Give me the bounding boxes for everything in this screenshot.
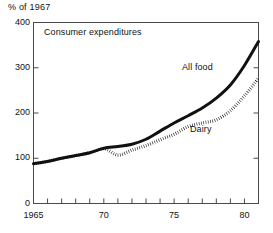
x-tick-label: 75 bbox=[169, 210, 179, 220]
x-tick-label: 70 bbox=[99, 210, 109, 220]
chart-figure: % of 1967 Consumer expenditures All food… bbox=[0, 0, 273, 233]
x-tick-label: 80 bbox=[239, 210, 249, 220]
x-axis-tick-labels: 1965707580 bbox=[0, 0, 273, 233]
x-tick-label: 1965 bbox=[23, 210, 43, 220]
